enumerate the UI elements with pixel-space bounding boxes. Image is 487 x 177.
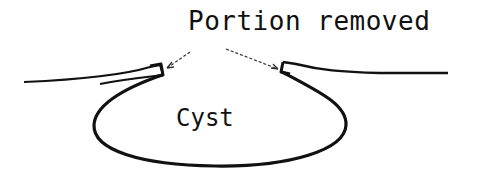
skin-surface-right bbox=[283, 62, 448, 73]
portion-removed-label: Portion removed bbox=[188, 6, 430, 36]
cyst-label: Cyst bbox=[176, 104, 234, 132]
arrow-right bbox=[226, 49, 278, 69]
arrow-right-head-icon bbox=[271, 64, 278, 69]
arrow-left-head-icon bbox=[167, 62, 174, 68]
diagram-canvas: Portion removed Cyst bbox=[0, 0, 487, 177]
arrow-left bbox=[167, 52, 190, 68]
